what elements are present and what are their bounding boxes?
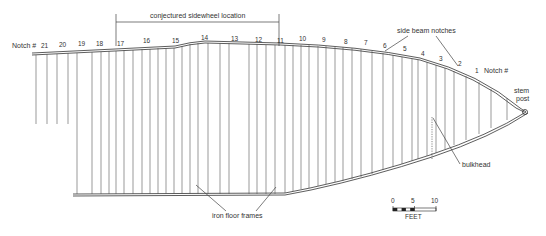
notch-numbers: 21 20 19 18 17 16 15 14 13 12 11 10 9 8 …	[41, 34, 479, 74]
iron-floor-frames-label: iron floor frames	[212, 212, 263, 219]
notch-4: 4	[421, 50, 425, 57]
notch-2: 2	[458, 60, 462, 67]
post-label: post	[516, 95, 529, 103]
bulkhead-label: bulkhead	[462, 161, 491, 168]
notch-12: 12	[255, 36, 263, 43]
notch-label-left: Notch #	[12, 42, 36, 49]
notch-1: 1	[475, 67, 479, 74]
top-hull-edge	[32, 41, 526, 112]
notch-13: 13	[231, 35, 239, 42]
bottom-hull-edge	[73, 112, 528, 196]
notch-label-right: Notch #	[484, 67, 508, 74]
sidewheel-label: conjectured sidewheel location	[150, 12, 245, 20]
notch-14: 14	[201, 34, 209, 41]
notch-8: 8	[344, 38, 348, 45]
notch-10: 10	[299, 35, 307, 42]
notch-7: 7	[364, 39, 368, 46]
scale-bar: 0 5 10 FEET	[391, 197, 439, 220]
hull-plan-diagram: conjectured sidewheel location	[0, 0, 546, 236]
notch-17: 17	[117, 40, 125, 47]
frames-leader-left	[196, 185, 226, 211]
iron-floor-frames	[36, 43, 507, 194]
notch-6: 6	[383, 42, 387, 49]
notch-19: 19	[78, 40, 86, 47]
notch-15: 15	[172, 37, 180, 44]
notch-21: 21	[41, 42, 49, 49]
scale-tick-10: 10	[431, 197, 439, 204]
notch-20: 20	[59, 41, 67, 48]
side-beam-notches-label: side beam notches	[397, 27, 456, 34]
notch-18: 18	[96, 40, 104, 47]
notch-5: 5	[403, 45, 407, 52]
stem-label: stem	[514, 87, 529, 94]
scale-tick-0: 0	[391, 197, 395, 204]
notch-3: 3	[439, 55, 443, 62]
scale-tick-5: 5	[411, 197, 415, 204]
scale-unit: FEET	[405, 213, 422, 220]
notch-11: 11	[277, 37, 284, 44]
bulkhead-leader	[433, 118, 460, 164]
notch-9: 9	[322, 36, 326, 43]
notch-16: 16	[143, 37, 151, 44]
